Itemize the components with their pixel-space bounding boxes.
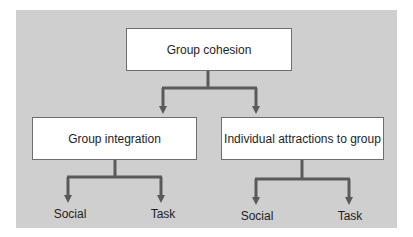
leaf-group-integration-task: Task	[151, 207, 176, 221]
node-label: Group cohesion	[167, 43, 252, 57]
node-label: Group integration	[68, 132, 161, 146]
individual-attractions-connector	[255, 160, 350, 201]
node-label: Individual attractions to group	[224, 132, 381, 146]
node-individual-attractions-to-group: Individual attractions to group	[221, 117, 384, 160]
leaf-group-integration-social: Social	[54, 207, 87, 221]
leaf-individual-attractions-task: Task	[338, 209, 363, 223]
node-group-integration: Group integration	[32, 117, 197, 160]
node-group-cohesion: Group cohesion	[126, 28, 292, 71]
root-connector	[162, 71, 257, 110]
group-integration-connector	[67, 160, 162, 199]
leaf-individual-attractions-social: Social	[241, 209, 274, 223]
